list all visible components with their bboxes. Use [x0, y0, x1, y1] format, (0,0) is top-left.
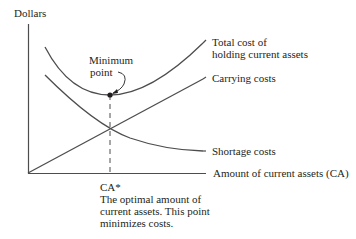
total-cost-label-line2: holding current assets: [212, 48, 308, 60]
optimal-note-line2: current assets. This point: [100, 205, 210, 217]
optimal-note-line1: The optimal amount of: [100, 193, 201, 205]
ca-star-label: CA*: [100, 181, 121, 193]
total-cost-leader: [203, 40, 206, 43]
minimum-point-label-line1: Minimum: [89, 54, 133, 66]
y-axis-label: Dollars: [14, 7, 46, 19]
carrying-costs-label: Carrying costs: [212, 72, 276, 84]
arrowhead-icon: [112, 89, 118, 94]
minimum-point-arrow: [113, 72, 125, 93]
optimal-note-line3: minimizes costs.: [100, 217, 173, 229]
carrying-leader: [203, 77, 206, 79]
shortage-costs-label: Shortage costs: [212, 145, 276, 157]
minimum-point-label-line2: point: [90, 66, 113, 78]
total-cost-label-line1: Total cost of: [212, 36, 267, 48]
x-axis-label: Amount of current assets (CA): [213, 167, 349, 179]
total-cost-curve: [45, 43, 203, 95]
minimum-point-marker: [107, 92, 112, 97]
shortage-costs-curve: [45, 75, 203, 151]
